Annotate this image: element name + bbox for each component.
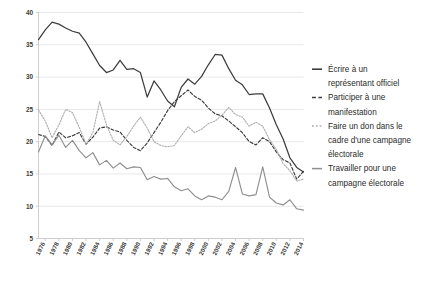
x-tick-label: 2006 xyxy=(238,240,251,256)
x-tick-label: 2010 xyxy=(265,240,278,256)
legend-item-label[interactable]: manifestation xyxy=(328,108,377,117)
x-tick-label: 2000 xyxy=(197,240,210,256)
x-tick-label: 2004 xyxy=(224,240,237,256)
legend-item-label[interactable]: Participer à une xyxy=(328,93,386,102)
legend-item-label[interactable]: Travailler pour une xyxy=(328,164,396,173)
x-tick-label: 1982 xyxy=(75,240,88,256)
x-tick-label: 1992 xyxy=(143,240,156,256)
data-series-group xyxy=(39,22,304,210)
x-tick-label: 1990 xyxy=(129,240,142,256)
y-tick-label: 15 xyxy=(26,170,34,177)
y-tick-label: 5 xyxy=(29,235,33,242)
x-tick-label: 2008 xyxy=(251,240,264,256)
y-tick-label: 20 xyxy=(26,138,34,145)
x-tick-label: 1978 xyxy=(48,240,61,256)
legend-item-label[interactable]: campagne électorale xyxy=(328,179,404,188)
x-tick-label: 1988 xyxy=(115,240,128,256)
x-tick-label: 1980 xyxy=(61,240,74,256)
x-tick-label: 2012 xyxy=(279,240,292,256)
chart-container: 510152025303540 197619781980198219841986… xyxy=(0,0,440,282)
x-tick-label: 2014 xyxy=(292,240,305,256)
legend-item-label[interactable]: Écrire à un xyxy=(328,64,368,74)
chart-legend: Écrire à unreprésentant officielParticip… xyxy=(312,64,411,188)
x-axis-tick-labels: 1976197819801982198419861988199019921994… xyxy=(34,239,305,257)
x-tick-label: 1994 xyxy=(156,240,169,256)
y-tick-label: 30 xyxy=(26,73,34,80)
x-tick-label: 1986 xyxy=(102,240,115,256)
x-tick-label: 2002 xyxy=(211,240,224,256)
x-tick-label: 1984 xyxy=(88,240,101,256)
legend-item-label[interactable]: cadre d'une campagne xyxy=(328,136,411,145)
y-tick-label: 40 xyxy=(26,9,34,16)
legend-item-label[interactable]: représentant officiel xyxy=(328,79,399,88)
line-chart-figure: 510152025303540 197619781980198219841986… xyxy=(0,0,440,282)
y-tick-label: 10 xyxy=(26,203,34,210)
x-tick-label: 1976 xyxy=(34,240,47,256)
x-tick-label: 1998 xyxy=(183,240,196,256)
y-tick-label: 25 xyxy=(26,106,34,113)
x-tick-label: 1996 xyxy=(170,240,183,256)
legend-item-label[interactable]: électorale xyxy=(328,150,364,159)
legend-item-label[interactable]: Faire un don dans le xyxy=(328,122,403,131)
y-tick-label: 35 xyxy=(26,41,34,48)
y-axis-tick-labels: 510152025303540 xyxy=(26,9,39,242)
